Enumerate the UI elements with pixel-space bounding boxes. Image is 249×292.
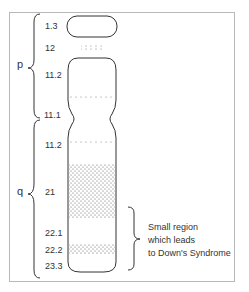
band-label-p12: 12 — [45, 44, 55, 53]
band-label-q22-2: 22.2 — [45, 246, 63, 255]
stalk-band-p12 — [81, 45, 103, 51]
band-label-q23-3: 23.3 — [45, 262, 63, 271]
downs-syndrome-annotation: Small region which leads to Down's Syndr… — [148, 221, 231, 260]
band-q11-2 — [69, 141, 115, 144]
band-label-p11-2: 11.2 — [45, 71, 62, 80]
satellite-band-p13 — [67, 16, 117, 37]
band-label-q22-1: 22.1 — [45, 229, 63, 238]
region-brace — [128, 207, 140, 270]
annotation-line-2: which leads — [148, 234, 231, 247]
band-q22-2 — [69, 244, 115, 254]
band-label-q11-2: 11.2 — [45, 141, 62, 150]
annotation-line-3: to Down's Syndrome — [148, 247, 231, 260]
band-label-p13: 1.3 — [45, 22, 58, 31]
annotation-line-1: Small region — [148, 221, 231, 234]
band-label-p11-1: 11.1 — [44, 111, 61, 120]
q-arm-brace — [28, 120, 40, 278]
p-arm-label: p — [17, 59, 23, 70]
band-q21 — [69, 164, 115, 218]
p-arm-brace — [28, 14, 40, 118]
q-arm-label: q — [17, 186, 23, 197]
band-p11-2 — [69, 95, 115, 98]
band-label-q21: 21 — [45, 188, 55, 197]
